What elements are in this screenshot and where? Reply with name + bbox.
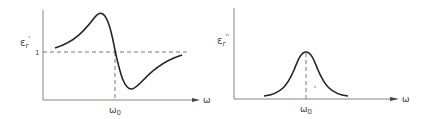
left-x-tick-omega0: ω0	[109, 105, 121, 117]
left-x-label: ω	[203, 95, 211, 105]
right-x-label: ω	[402, 94, 410, 104]
right-x-axis-arrow-icon	[390, 97, 399, 101]
left-x-axis-arrow-icon	[192, 98, 200, 102]
stray-dot	[314, 86, 315, 87]
left-y-tick-1: 1	[35, 49, 39, 57]
right-chart: εr'' ω0 ω	[217, 8, 410, 116]
right-x-tick-omega0: ω0	[300, 104, 312, 116]
right-y-label: εr''	[217, 33, 229, 48]
left-y-label: εr'	[20, 35, 30, 50]
left-curve-real-permittivity	[55, 13, 182, 89]
left-chart: εr' 1 ω0 ω	[20, 10, 211, 117]
figure: εr' 1 ω0 ω εr'' ω0 ω	[0, 0, 427, 119]
